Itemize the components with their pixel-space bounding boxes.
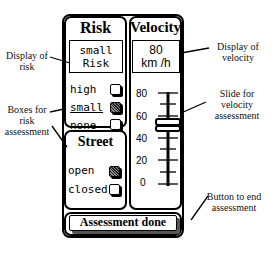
leader-lines	[0, 0, 280, 257]
